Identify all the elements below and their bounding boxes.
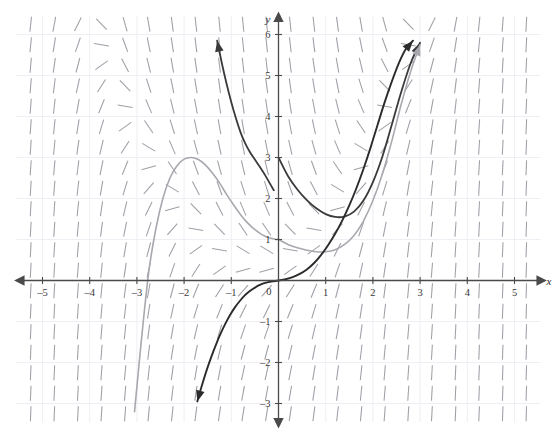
slope-mark	[123, 38, 128, 52]
slope-mark	[308, 245, 320, 254]
slope-mark	[331, 184, 344, 192]
y-tick-label: 6	[265, 29, 270, 40]
slope-mark	[54, 386, 55, 401]
slope-mark	[101, 283, 102, 298]
slope-mark	[54, 365, 55, 380]
slope-mark	[377, 105, 392, 107]
slope-mark	[195, 365, 198, 380]
slope-mark	[479, 181, 480, 196]
slope-mark	[336, 324, 339, 339]
slope-mark	[171, 99, 175, 114]
slope-mark	[77, 242, 78, 257]
slope-mark	[431, 160, 433, 175]
slope-mark	[479, 201, 480, 216]
slope-mark	[311, 161, 316, 175]
slope-mark	[526, 37, 527, 52]
slope-mark	[454, 37, 456, 52]
tick-labels: –5–4–3–2–112345–3–2–11234560	[36, 29, 517, 409]
slope-mark	[502, 365, 503, 380]
slope-mark	[170, 263, 175, 277]
slope-mark	[478, 78, 479, 93]
slope-mark	[242, 37, 244, 52]
slope-mark	[502, 78, 503, 93]
slope-mark	[289, 58, 291, 73]
slope-mark	[526, 78, 527, 93]
slope-mark	[312, 324, 315, 339]
slope-mark	[30, 365, 31, 380]
y-tick-label: –3	[259, 398, 271, 409]
slope-mark	[502, 201, 503, 216]
slope-mark	[99, 120, 103, 134]
slope-mark	[195, 37, 197, 52]
slope-mark	[432, 406, 433, 421]
slope-mark	[526, 263, 527, 278]
slope-mark	[75, 18, 82, 31]
slope-mark	[526, 160, 527, 175]
slope-mark	[502, 345, 503, 360]
slope-mark	[122, 161, 128, 175]
slope-mark	[76, 78, 79, 93]
slope-mark	[171, 386, 173, 401]
slope-mark	[171, 324, 174, 339]
slope-mark	[360, 365, 362, 380]
slope-mark	[124, 242, 127, 257]
slope-mark	[30, 17, 32, 32]
slope-mark	[30, 160, 31, 175]
slope-mark	[431, 222, 432, 237]
slope-mark	[212, 249, 227, 251]
y-tick-label: 1	[265, 234, 270, 245]
slope-mark	[147, 243, 151, 258]
slope-mark	[77, 181, 79, 196]
slope-mark	[148, 406, 149, 421]
slope-mark	[218, 365, 221, 380]
slope-mark	[383, 17, 387, 31]
slope-mark	[313, 406, 315, 421]
slope-mark	[30, 78, 31, 93]
x-tick-label: –5	[36, 287, 48, 298]
slope-mark	[218, 161, 222, 175]
slope-mark	[97, 79, 105, 92]
slope-mark	[77, 324, 78, 339]
slope-mark	[384, 406, 385, 421]
slope-mark	[312, 140, 316, 154]
slope-mark	[218, 345, 221, 360]
slope-mark	[242, 119, 245, 134]
slope-mark	[148, 304, 150, 319]
slope-mark	[101, 222, 103, 237]
slope-mark	[429, 18, 436, 31]
slope-mark	[479, 140, 480, 155]
slope-mark	[384, 304, 386, 319]
slope-mark	[407, 242, 409, 257]
slope-field-plot: –5–4–3–2–112345–3–2–11234560xy	[0, 0, 559, 437]
slope-mark	[337, 386, 339, 401]
x-tick-label: –2	[178, 287, 190, 298]
slope-mark	[284, 266, 296, 275]
slope-mark	[171, 58, 174, 73]
slope-mark	[77, 222, 78, 237]
slope-mark	[455, 263, 456, 278]
slope-mark	[383, 201, 386, 216]
slope-mark	[431, 345, 432, 360]
slope-mark	[311, 284, 317, 298]
slope-mark	[407, 181, 410, 196]
slope-mark	[77, 386, 78, 401]
slope-mark	[191, 203, 201, 214]
slope-mark	[526, 140, 527, 155]
slope-mark	[124, 365, 125, 380]
slope-mark	[526, 17, 527, 32]
slope-mark	[359, 58, 363, 73]
slope-mark	[283, 249, 298, 251]
slope-mark	[307, 228, 322, 230]
slope-mark	[431, 365, 432, 380]
slope-mark	[53, 17, 56, 32]
slope-mark	[502, 242, 503, 257]
slope-mark	[479, 119, 480, 134]
slope-mark	[218, 140, 221, 155]
slope-mark	[218, 99, 220, 114]
slope-mark	[455, 386, 456, 401]
slope-mark	[165, 207, 179, 211]
slope-mark	[124, 386, 125, 401]
slope-mark	[455, 201, 456, 216]
slope-mark	[360, 386, 362, 401]
slope-mark	[260, 246, 273, 254]
